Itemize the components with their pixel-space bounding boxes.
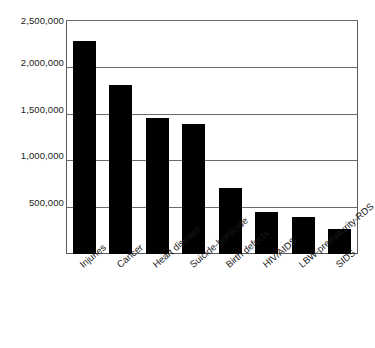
- bar-chart: 2,500,000 2,000,000 1,500,000 1,000,000 …: [0, 0, 375, 348]
- bar: [109, 85, 132, 254]
- y-tick-label: 500,000: [2, 198, 64, 208]
- bar: [146, 118, 169, 254]
- y-tick-label: 1,000,000: [2, 151, 64, 161]
- y-tick-label: 2,500,000: [2, 16, 64, 26]
- y-tick-label: 2,000,000: [2, 58, 64, 68]
- bars-group: [66, 20, 358, 254]
- bar: [73, 41, 96, 254]
- y-tick-label: 1,500,000: [2, 105, 64, 115]
